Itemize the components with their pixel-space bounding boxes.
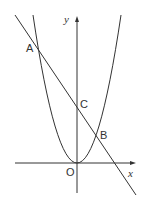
point-a-label: A [26, 42, 34, 54]
y-axis-arrow-icon [75, 16, 79, 22]
x-axis-label: x [127, 167, 133, 179]
x-axis-arrow-icon [130, 161, 136, 165]
point-b-label: B [100, 129, 107, 141]
y-axis-label: y [63, 13, 69, 25]
point-c-label: C [80, 98, 88, 110]
origin-label: O [66, 166, 75, 178]
coordinate-diagram: y x A C B O [0, 0, 146, 205]
